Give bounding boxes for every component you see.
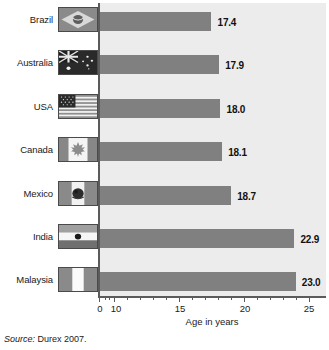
x-tick-17	[205, 296, 206, 300]
category-row-brazil: Brazil	[0, 4, 98, 34]
source-text: Durex 2007.	[38, 334, 87, 344]
x-tick-24	[296, 296, 297, 300]
bar-brazil	[100, 12, 211, 31]
x-tick-16	[192, 296, 193, 300]
category-row-australia: Australia	[0, 47, 98, 77]
x-tick-20	[244, 296, 245, 302]
x-tick-14	[166, 296, 167, 300]
category-row-canada: Canada	[0, 134, 98, 164]
x-tick-label-25: 25	[304, 303, 315, 314]
bar-india	[100, 229, 294, 248]
bar-value-usa: 18.0	[227, 103, 246, 114]
bar-row-malaysia: 23.0	[100, 272, 326, 291]
bar-value-australia: 17.9	[225, 59, 244, 70]
bar-mexico	[100, 186, 231, 205]
x-tick-10	[114, 296, 115, 302]
x-tick-0	[99, 296, 100, 302]
bar-value-mexico: 18.7	[237, 190, 256, 201]
bar-value-canada: 18.1	[228, 146, 247, 157]
category-label-brazil: Brazil	[30, 14, 58, 25]
x-tick-18	[218, 296, 219, 300]
category-label-india: India	[33, 231, 58, 242]
bar-row-india: 22.9	[100, 229, 326, 248]
bar-row-usa: 18.0	[100, 99, 326, 118]
source-prefix: Source:	[4, 334, 35, 344]
bar-value-brazil: 17.4	[218, 16, 237, 27]
flag-mexico-icon	[58, 181, 98, 206]
bar-usa	[100, 99, 220, 118]
bar-australia	[100, 55, 219, 74]
plot-area: 17.4 17.9 18.0 18.1 18.7 22.9 23.0	[98, 3, 326, 296]
category-label-mexico: Mexico	[24, 188, 59, 199]
category-row-malaysia: Malaysia	[0, 264, 98, 294]
category-row-usa: USA	[0, 91, 98, 121]
bar-malaysia	[100, 272, 296, 291]
bar-canada	[100, 142, 222, 161]
bar-value-india: 22.9	[300, 233, 319, 244]
flag-brazil-icon	[58, 7, 98, 32]
category-label-canada: Canada	[20, 144, 58, 155]
x-tick-19	[231, 296, 232, 300]
bar-row-australia: 17.9	[100, 55, 326, 74]
bar-row-brazil: 17.4	[100, 12, 326, 31]
x-tick-label-0: 0	[97, 303, 102, 314]
x-tick-23	[283, 296, 284, 300]
bar-row-canada: 18.1	[100, 142, 326, 161]
x-tick-12	[140, 296, 141, 300]
x-tick-22	[270, 296, 271, 300]
x-axis-line	[98, 296, 326, 298]
category-label-usa: USA	[34, 101, 58, 112]
x-tick-25	[309, 296, 310, 302]
x-tick-label-20: 20	[240, 303, 251, 314]
flag-australia-icon	[58, 50, 98, 75]
category-label-australia: Australia	[17, 57, 58, 68]
x-tick-break-b	[109, 296, 110, 300]
category-row-india: India	[0, 221, 98, 251]
flag-canada-icon	[58, 137, 98, 162]
bar-row-mexico: 18.7	[100, 186, 326, 205]
category-row-mexico: Mexico	[0, 178, 98, 208]
flag-malaysia-icon	[58, 267, 98, 292]
x-tick-13	[153, 296, 154, 300]
flag-india-icon	[58, 224, 98, 249]
x-tick-label-15: 15	[175, 303, 186, 314]
x-tick-15	[179, 296, 180, 302]
x-tick-11	[127, 296, 128, 300]
bar-value-malaysia: 23.0	[302, 276, 321, 287]
bar-chart-figure: Brazil Australia	[0, 0, 329, 350]
flag-usa-icon	[58, 94, 98, 119]
x-axis-title: Age in years	[98, 316, 326, 327]
category-label-malaysia: Malaysia	[16, 274, 58, 285]
x-tick-label-10: 10	[111, 303, 122, 314]
source-note: Source: Durex 2007.	[4, 334, 87, 344]
x-tick-break-a	[105, 296, 106, 300]
x-tick-21	[257, 296, 258, 300]
